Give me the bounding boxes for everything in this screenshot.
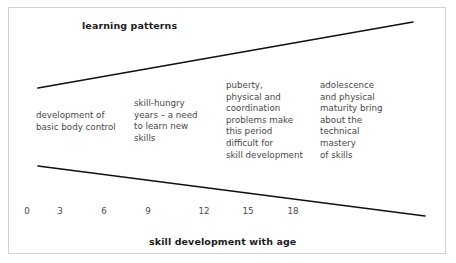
axis-tick-18: 18: [283, 206, 303, 216]
axis-tick-3: 3: [50, 206, 70, 216]
axis-tick-15: 15: [238, 206, 258, 216]
stage-text-block-3: adolescence and physical maturity bring …: [320, 80, 400, 161]
axis-tick-0: 0: [17, 206, 37, 216]
axis-tick-12: 12: [194, 206, 214, 216]
chart-title-learning-patterns: learning patterns: [82, 20, 177, 31]
axis-label-skill-development: skill development with age: [149, 236, 296, 247]
axis-tick-9: 9: [138, 206, 158, 216]
rising-trend-line: [38, 22, 413, 88]
stage-text-block-1: skill-hungry years – a need to learn new…: [134, 98, 212, 144]
axis-tick-6: 6: [94, 206, 114, 216]
stage-text-block-2: puberty, physical and coordination probl…: [226, 80, 312, 161]
figure-container: learning patterns development of basic b…: [0, 0, 456, 263]
stage-text-block-0: development of basic body control: [36, 110, 136, 133]
